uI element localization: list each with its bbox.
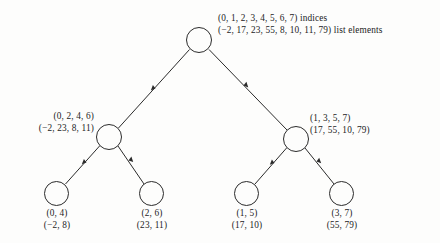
node-leaf-1-elements: (−2, 8) — [7, 220, 107, 232]
edge-leaf-3-to-right-internal — [255, 148, 287, 185]
node-root-label: (0, 1, 2, 3, 4, 5, 6, 7) indices (−2, 17… — [218, 13, 383, 36]
node-left-internal-label: (0, 2, 4, 6) (−2, 23, 8, 11) — [8, 111, 94, 134]
edge-right-internal-to-root — [209, 50, 287, 131]
node-leaf-3[interactable] — [234, 181, 259, 206]
node-leaf-1-label: (0, 4) (−2, 8) — [7, 208, 107, 231]
node-leaf-4-label: (3, 7) (55, 79) — [292, 208, 392, 231]
node-right-internal-elements: (17, 55, 10, 79) — [310, 125, 370, 137]
node-right-internal-label: (1, 3, 5, 7) (17, 55, 10, 79) — [310, 113, 370, 136]
node-leaf-1[interactable] — [44, 181, 69, 206]
node-leaf-4-indices: (3, 7) — [292, 208, 392, 220]
node-leaf-2-label: (2, 6) (23, 11) — [102, 208, 202, 231]
node-leaf-1-indices: (0, 4) — [7, 208, 107, 220]
tree-diagram: (0, 1, 2, 3, 4, 5, 6, 7) indices (−2, 17… — [0, 0, 440, 243]
edge-leaf-1-to-left-internal — [66, 146, 101, 185]
node-left-internal-elements: (−2, 23, 8, 11) — [8, 123, 94, 135]
arrowhead-leaf-2-to-left-internal — [129, 157, 134, 163]
edge-leaf-2-to-left-internal — [118, 146, 144, 184]
node-leaf-3-indices: (1, 5) — [197, 208, 297, 220]
node-root[interactable] — [186, 27, 212, 53]
node-left-internal-indices: (0, 2, 4, 6) — [8, 111, 94, 123]
node-right-internal-indices: (1, 3, 5, 7) — [310, 113, 370, 125]
node-leaf-3-label: (1, 5) (17, 10) — [197, 208, 297, 231]
node-leaf-2-indices: (2, 6) — [102, 208, 202, 220]
node-leaf-3-elements: (17, 10) — [197, 220, 297, 232]
node-leaf-4[interactable] — [329, 181, 354, 206]
node-root-elements: (−2, 17, 23, 55, 8, 10, 11, 79) list ele… — [218, 25, 383, 37]
node-leaf-2-elements: (23, 11) — [102, 220, 202, 232]
node-leaf-4-elements: (55, 79) — [292, 220, 392, 232]
edge-leaf-4-to-right-internal — [305, 148, 334, 184]
node-left-internal[interactable] — [96, 124, 122, 150]
node-leaf-2[interactable] — [139, 181, 164, 206]
node-root-indices: (0, 1, 2, 3, 4, 5, 6, 7) indices — [218, 13, 383, 25]
node-right-internal[interactable] — [283, 126, 309, 152]
